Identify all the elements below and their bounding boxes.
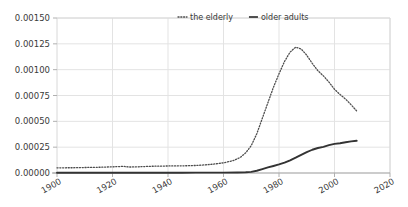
- y-tick-label: 0.00150: [15, 13, 50, 23]
- y-tick-label: 0.00000: [15, 168, 50, 178]
- y-tick-label: 0.00050: [15, 116, 50, 126]
- y-tick-label: 0.00125: [15, 39, 50, 49]
- line-chart: 0.000000.000250.000500.000750.001000.001…: [0, 0, 408, 207]
- chart-background: [0, 0, 408, 207]
- y-tick-label: 0.00025: [15, 142, 50, 152]
- y-tick-label: 0.00100: [15, 65, 50, 75]
- chart-container: 0.000000.000250.000500.000750.001000.001…: [0, 0, 408, 207]
- legend-label-the-elderly: the elderly: [190, 13, 233, 22]
- legend-label-older-adults: older adults: [261, 13, 309, 22]
- y-tick-label: 0.00075: [15, 91, 50, 101]
